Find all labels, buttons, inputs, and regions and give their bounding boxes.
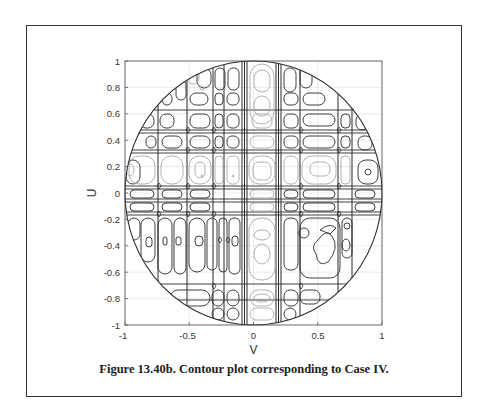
- y-axis-label: U: [85, 189, 99, 198]
- y-tick-label: 0.2: [107, 161, 120, 172]
- x-tick-label: 0.5: [311, 330, 324, 341]
- y-tick-label: 0.8: [107, 82, 120, 93]
- grid-lines: [125, 61, 382, 325]
- contour-lines: [120, 55, 390, 330]
- y-tick-label: 0.6: [107, 108, 120, 119]
- y-tick-label: 1: [115, 56, 120, 67]
- y-tick-label: -0.2: [104, 214, 120, 225]
- x-tick-label: 1: [379, 330, 384, 341]
- y-tick-label: -0.8: [104, 293, 120, 304]
- y-tick-label: -0.4: [104, 240, 120, 251]
- x-tick-label: -0.5: [179, 330, 195, 341]
- y-tick-labels: 1 0.8 0.6 0.4 0.2 0 -0.2 -0.4 -0.6 -0.8 …: [104, 56, 120, 331]
- x-tick-label: -1: [119, 330, 127, 341]
- x-tick-label: 0: [251, 330, 256, 341]
- x-axis-label: V: [249, 343, 257, 357]
- x-tick-labels: -1 -0.5 0 0.5 1: [119, 330, 385, 341]
- figure-caption: Figure 13.40b. Contour plot correspondin…: [26, 362, 462, 377]
- y-tick-label: -0.6: [104, 267, 120, 278]
- contour-chart: 1 0.8 0.6 0.4 0.2 0 -0.2 -0.4 -0.6 -0.8 …: [0, 0, 488, 418]
- y-tick-label: -1: [112, 320, 120, 331]
- y-tick-label: 0: [115, 188, 120, 199]
- y-tick-label: 0.4: [107, 135, 120, 146]
